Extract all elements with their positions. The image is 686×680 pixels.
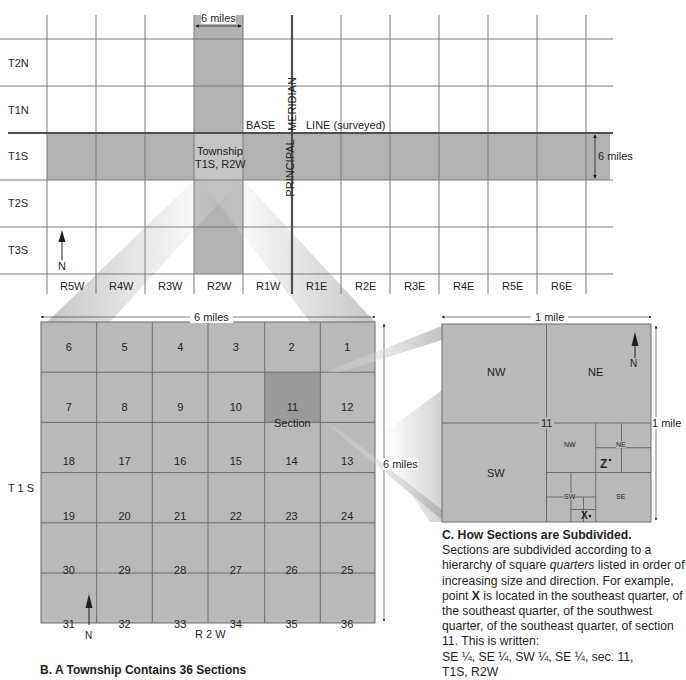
township-highlight-line1: Township [197,145,241,157]
range-label-r2w: R2W [207,280,231,292]
section-25: 25 [341,564,353,576]
section-11-highlight [265,372,321,422]
quarter-ne: NE [588,366,603,378]
dim-top-label: 6 miles [201,12,236,24]
north-label-section: N [630,358,637,369]
range-label-r4e: R4E [453,280,474,292]
range-label-r1e: R1E [306,280,327,292]
township-row-label: T 1 S [8,482,34,494]
section-caption-title: C. How Sections are Subdivided. [442,528,686,543]
township-caption: B. A Township Contains 36 Sections [40,663,246,677]
section-width-label: 1 mile [531,311,568,323]
township-column-label: R 2 W [195,628,226,640]
section-30: 30 [63,564,75,576]
section-caption-body: Sections are subdivided according to a h… [442,543,686,649]
section-5: 5 [121,341,127,353]
section-14: 14 [285,455,297,467]
quarter-sw: SW [487,467,505,479]
section-9: 9 [177,401,183,413]
range-label-r5e: R5E [502,280,523,292]
range-label-r3w: R3W [158,280,182,292]
subquarter-nw: NW [564,441,576,448]
section-32: 32 [118,618,130,630]
section-1: 1 [344,341,350,353]
range-label-r4w: R4W [109,280,133,292]
township-label-t1n: T1N [8,104,29,116]
section-3: 3 [233,341,239,353]
section-6: 6 [66,341,72,353]
section-13: 13 [341,455,353,467]
highlight-bands [47,15,610,274]
range-label-r2e: R2E [355,280,376,292]
section-20: 20 [118,510,130,522]
subquarter-ne: NE [616,441,626,448]
section-4: 4 [177,341,183,353]
section-15: 15 [230,455,242,467]
section-28: 28 [174,564,186,576]
section-16: 16 [174,455,186,467]
north-label-top: N [58,260,66,272]
north-arrow-top [59,230,66,242]
section-caption-notation-2: T1S, R2W [442,665,686,680]
base-line-label-left: BASE [246,119,275,131]
township-width-label: 6 miles [190,311,233,323]
point-z-dot [609,459,612,462]
section-29: 29 [118,564,130,576]
section-17: 17 [118,455,130,467]
section-8: 8 [121,401,127,413]
section-34: 34 [230,618,242,630]
section-35: 35 [285,618,297,630]
section-11-label: Section [274,417,311,429]
meridian-label-bottom: PRINCIPAL [284,133,296,203]
section-27: 27 [230,564,242,576]
section-33: 33 [174,618,186,630]
section-height-label: 1 mile [652,417,681,429]
township-label-t3s: T3S [8,244,28,256]
subquarter-sw: SW [564,493,575,500]
range-label-r6e: R6E [551,280,572,292]
section-7: 7 [66,401,72,413]
section-caption-notation-1: SE ¼, SE ¼, SW ¼, SE ¼, sec. 11, [442,650,686,665]
section-24: 24 [341,510,353,522]
base-line-label-right: LINE (surveyed) [306,119,385,131]
township-height-label: 6 miles [383,458,418,470]
point-x-label: X [581,510,588,521]
section-10: 10 [230,401,242,413]
section-number-label: 11 [539,417,554,429]
township-label-t2s: T2S [8,197,28,209]
section-23: 23 [285,510,297,522]
range-label-r3e: R3E [404,280,425,292]
subquarter-se: SE [616,493,625,500]
section-36: 36 [341,618,353,630]
section-2: 2 [288,341,294,353]
section-26: 26 [285,564,297,576]
section-22: 22 [230,510,242,522]
township-label-t2n: T2N [8,57,29,69]
section-18: 18 [63,455,75,467]
township-highlight-line2: T1S, R2W [195,158,243,170]
dim-right-label: 6 miles [598,150,633,162]
section-caption: C. How Sections are Subdivided. Sections… [442,528,686,680]
range-label-r1w: R1W [256,280,280,292]
meridian-label-top: MERIDIAN [286,74,298,134]
range-label-r5w: R5W [60,280,84,292]
section-31: 31 [63,618,75,630]
section-12: 12 [341,401,353,413]
caption-italic: quarters [550,558,595,572]
caption-bold-x: X [472,589,480,603]
section-11: 11 [287,401,298,413]
north-label-township: N [85,630,92,641]
section-19: 19 [63,510,75,522]
point-z-label: Z [600,457,607,471]
township-label-t1s: T1S [8,150,28,162]
quarter-nw: NW [487,366,505,378]
point-x-dot [589,515,592,518]
section-21: 21 [174,510,186,522]
